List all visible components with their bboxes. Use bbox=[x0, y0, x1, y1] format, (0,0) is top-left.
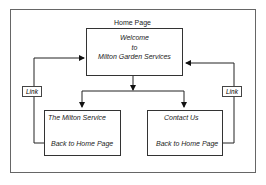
link-label-right: Link bbox=[222, 86, 242, 97]
service-title: The Milton Service bbox=[48, 114, 106, 121]
home-to: to bbox=[87, 44, 182, 51]
service-back-link[interactable]: Back to Home Page bbox=[51, 140, 113, 147]
home-welcome: Welcome bbox=[87, 34, 182, 41]
contact-page-box: Contact Us Back to Home Page bbox=[147, 110, 223, 156]
home-page-box: Welcome to Milton Garden Services bbox=[86, 28, 183, 76]
link-label-left: Link bbox=[22, 86, 42, 97]
contact-title: Contact Us bbox=[164, 114, 199, 121]
service-page-box: The Milton Service Back to Home Page bbox=[44, 110, 121, 156]
home-page-caption: Home Page bbox=[114, 19, 151, 26]
contact-back-link[interactable]: Back to Home Page bbox=[156, 140, 218, 147]
home-company: Milton Garden Services bbox=[87, 53, 182, 60]
